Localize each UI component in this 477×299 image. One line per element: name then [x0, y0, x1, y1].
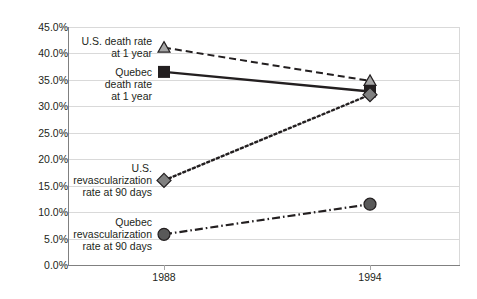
x-axis: 1988 1994: [0, 0, 477, 299]
line-chart: 45.0% 40.0% 35.0% 30.0% 25.0% 20.0% 15.0…: [0, 0, 477, 299]
x-tick-label-1994: 1994: [358, 272, 381, 283]
x-tick-mark-1988: [164, 265, 165, 270]
x-tick-label-1988: 1988: [152, 272, 175, 283]
x-tick-mark-1994: [370, 265, 371, 270]
